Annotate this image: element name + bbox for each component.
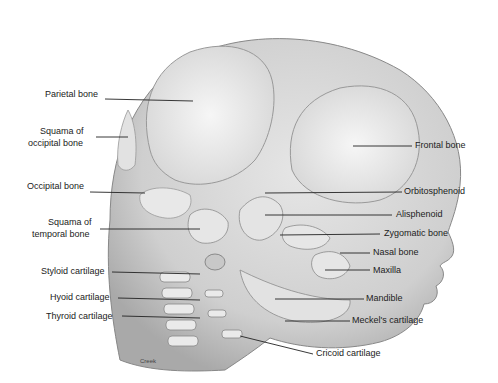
label-squama-temporal-line2: temporal bone	[32, 229, 90, 240]
label-alisphenoid: Alisphenoid	[396, 209, 443, 220]
label-thyroid-cartilage: Thyroid cartilage	[46, 311, 113, 322]
label-squama-temporal-line1: Squama of	[48, 217, 92, 228]
eye-orbit	[205, 254, 225, 270]
label-styloid-cartilage: Styloid cartilage	[41, 266, 105, 277]
label-cricoid-cartilage: Cricoid cartilage	[316, 348, 381, 359]
label-orbitosphenoid: Orbitosphenoid	[404, 186, 465, 197]
label-nasal-bone: Nasal bone	[373, 247, 419, 258]
label-squama-occipital-line1: Squama of	[40, 126, 84, 137]
label-mandible: Mandible	[366, 293, 403, 304]
label-occipital-bone: Occipital bone	[27, 181, 84, 192]
label-parietal-bone: Parietal bone	[45, 89, 98, 100]
label-maxilla: Maxilla	[373, 265, 401, 276]
label-squama-occipital-line2: occipital bone	[28, 138, 83, 149]
artist-credit: Creek	[140, 358, 156, 364]
label-zygomatic-bone: Zygomatic bone	[384, 228, 448, 239]
label-hyoid-cartilage: Hyoid cartilage	[50, 292, 110, 303]
label-meckels-cartilage: Meckel's cartilage	[352, 315, 423, 326]
label-frontal-bone: Frontal bone	[415, 140, 466, 151]
